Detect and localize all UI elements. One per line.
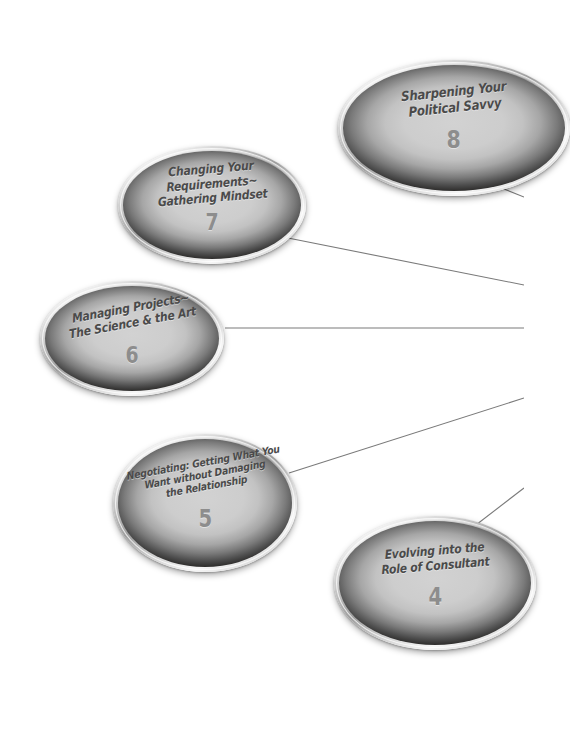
node-negotiating-getting-what-you-want[interactable]: Negotiating: Getting What You Want witho… xyxy=(113,434,297,572)
node-managing-projects-the-science-and-the-art[interactable]: Managing Projects~ The Science & the Art… xyxy=(40,281,224,396)
node-body xyxy=(123,151,301,259)
connector-from-node-5 xyxy=(289,398,524,473)
node-body xyxy=(339,521,531,645)
node-body xyxy=(45,286,219,391)
connector-from-node-7 xyxy=(288,238,524,285)
node-body xyxy=(118,439,292,567)
node-evolving-into-the-role-of-consultant[interactable]: Evolving into the Role of Consultant 4 xyxy=(334,516,536,650)
node-body xyxy=(343,65,565,191)
node-sharpening-your-political-savvy[interactable]: Sharpening Your Political Savvy 8 xyxy=(338,60,570,196)
node-changing-your-requirements-gathering-mindset[interactable]: Changing Your Requirements~ Gathering Mi… xyxy=(118,146,306,264)
